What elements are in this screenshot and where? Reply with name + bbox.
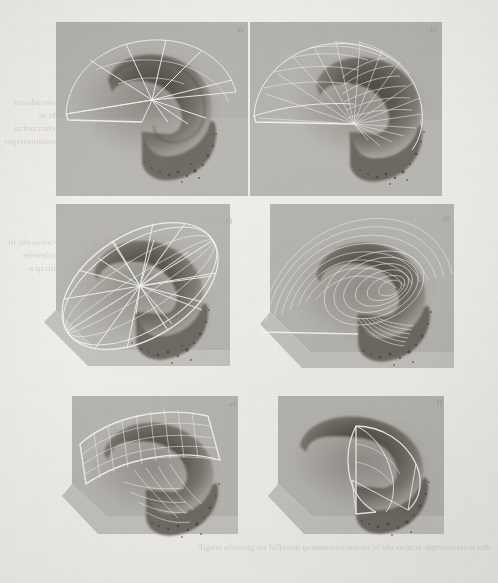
figure-panel-c: c) (36, 200, 246, 380)
panel-e-render (60, 392, 246, 544)
figure-panel-f: f) (266, 392, 452, 544)
panel-b-label: b) (430, 25, 437, 34)
figure-panel-b: b) (250, 22, 442, 196)
panel-e-label: e) (230, 400, 236, 409)
panel-c-render (36, 200, 246, 380)
panel-b-render (250, 22, 442, 196)
panel-f-render (266, 392, 452, 544)
panel-c-label: c) (226, 216, 232, 225)
figure-panel-e: e) (60, 392, 246, 544)
panel-d-render (256, 200, 462, 380)
figure-panel-d: d) (256, 200, 462, 380)
panel-a-label: a) (237, 25, 243, 34)
panel-d-label: d) (443, 214, 450, 223)
figure-panel-a: a) (56, 22, 248, 196)
panel-f-label: f) (437, 398, 442, 407)
scanned-figure-page: noitcudortni eht ni debircsed sa ,noitat… (0, 0, 498, 583)
bleed-through-text-left: noitcudortni eht ni debircsed sa ,noitat… (2, 96, 60, 148)
panel-a-render (56, 22, 248, 196)
